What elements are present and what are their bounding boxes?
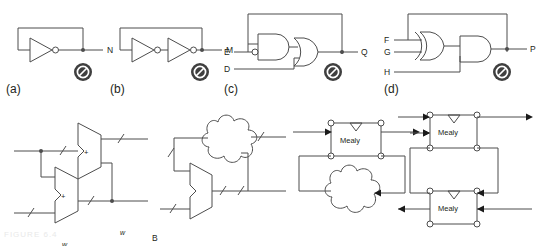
prohibited-icon [492,62,512,82]
panel-label-a: (a) [6,83,21,95]
panel-c-schematic [222,0,372,105]
mealy-block-title: Mealy [340,136,360,145]
panel-h-schematic: Mealy Mealy [398,105,542,246]
bus-width-label: w [62,241,67,246]
signal-label-G: G [384,48,391,57]
panel-c: E D Q (c) [222,0,372,105]
panel-label-c: (c) [224,83,238,95]
signal-label-E: E [224,48,230,57]
prohibited-icon [73,62,93,82]
panel-h: Mealy Mealy [398,105,542,246]
panel-e-schematic: + + [0,105,170,246]
panel-f: (f) [160,105,300,246]
figure-watermark: FIGURE 6.4 [4,231,58,239]
panel-d: F G H P (d) [382,0,542,105]
signal-label-P: P [530,45,536,54]
panel-label-d: (d) [384,83,399,95]
figure-canvas: N (a) M (b) [0,0,542,246]
signal-label-B: B [152,234,158,243]
signal-label-Q: Q [361,48,368,57]
signal-label-F: F [384,36,389,45]
bus-width-label: w [120,229,125,236]
svg-text:+: + [84,148,89,157]
mealy-block-title: Mealy [438,128,458,137]
prohibited-icon [323,62,343,82]
svg-text:+: + [61,192,66,201]
prohibited-icon [190,62,210,82]
panel-label-b: (b) [110,83,125,95]
panel-e: + + X A B Y w w [0,105,170,246]
mealy-block-title: Mealy [438,204,458,213]
signal-label-D: D [224,65,230,74]
panel-d-schematic [382,0,542,105]
panel-f-schematic [160,105,300,246]
signal-label-H: H [384,68,390,77]
